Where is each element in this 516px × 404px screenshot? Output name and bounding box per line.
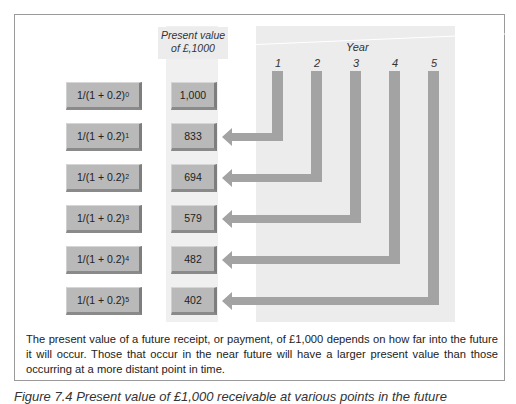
present-value-box-2: 694 <box>171 164 217 192</box>
formula-base: 1/(1 + 0.2) <box>77 89 125 101</box>
formula-exponent: 3 <box>125 214 129 221</box>
formula-base: 1/(1 + 0.2) <box>77 130 125 142</box>
formula-exponent: 0 <box>125 91 129 98</box>
arrow-year-1 <box>222 71 283 146</box>
formula-base: 1/(1 + 0.2) <box>77 294 125 306</box>
discount-factor-box-1: 1/(1 + 0.2)1 <box>66 123 142 151</box>
formula-base: 1/(1 + 0.2) <box>77 212 125 224</box>
arrow-year-5 <box>222 71 439 310</box>
present-value-box-5: 402 <box>171 287 217 315</box>
figure-caption: Figure 7.4 Present value of £1,000 recei… <box>14 389 447 404</box>
figure-description: The present value of a future receipt, o… <box>26 332 498 377</box>
present-value-box-1: 833 <box>171 123 217 151</box>
discount-factor-box-2: 1/(1 + 0.2)2 <box>66 164 142 192</box>
discount-factor-box-0: 1/(1 + 0.2)0 <box>66 82 142 110</box>
discount-factor-box-4: 1/(1 + 0.2)4 <box>66 246 142 274</box>
formula-base: 1/(1 + 0.2) <box>77 253 125 265</box>
discount-factor-box-5: 1/(1 + 0.2)5 <box>66 287 142 315</box>
formula-exponent: 4 <box>125 255 129 262</box>
formula-exponent: 2 <box>125 173 129 180</box>
present-value-box-3: 579 <box>171 205 217 233</box>
present-value-box-0: 1,000 <box>171 82 217 110</box>
formula-base: 1/(1 + 0.2) <box>77 171 125 183</box>
formula-exponent: 1 <box>125 132 129 139</box>
present-value-box-4: 482 <box>171 246 217 274</box>
discount-factor-box-3: 1/(1 + 0.2)3 <box>66 205 142 233</box>
arrow-year-3 <box>222 71 361 228</box>
formula-exponent: 5 <box>125 296 129 303</box>
